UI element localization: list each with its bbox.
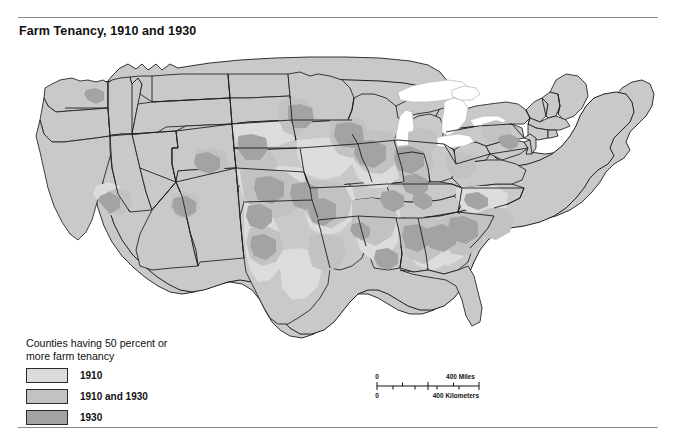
legend-label-1910-and-1930: 1910 and 1930 [80, 391, 148, 402]
scale-miles-start: 0 [375, 373, 379, 380]
state-north-dakota [228, 74, 290, 98]
legend: Counties having 50 percent or more farm … [26, 337, 226, 426]
legend-swatch-1910-and-1930 [26, 389, 68, 404]
legend-item-1930: 1930 [26, 409, 226, 426]
map-page: Farm Tenancy, 1910 and 1930 [0, 0, 677, 443]
scale-km-end: 400 Kilometers [433, 392, 480, 399]
scale-ticks-kilometers [393, 386, 459, 390]
scale-bar: 0 400 Miles 0 400 Kilometers [371, 372, 531, 406]
legend-item-1910-and-1930: 1910 and 1930 [26, 388, 226, 405]
map-figure [0, 36, 677, 386]
top-divider [18, 17, 658, 18]
legend-swatch-1910 [26, 368, 68, 383]
legend-swatch-1930 [26, 410, 68, 425]
legend-label-1910: 1910 [80, 370, 102, 381]
bottom-divider [18, 427, 658, 428]
scale-bar-graphic: 0 400 Miles 0 400 Kilometers [371, 372, 531, 406]
us-choropleth-map [0, 36, 677, 386]
legend-label-1930: 1930 [80, 412, 102, 423]
state-montana [130, 74, 230, 102]
scale-km-start: 0 [375, 392, 379, 399]
state-rhode-island [548, 130, 558, 138]
legend-heading: Counties having 50 percent or more farm … [26, 337, 186, 363]
scale-miles-end: 400 Miles [446, 373, 475, 380]
legend-item-1910: 1910 [26, 367, 226, 384]
